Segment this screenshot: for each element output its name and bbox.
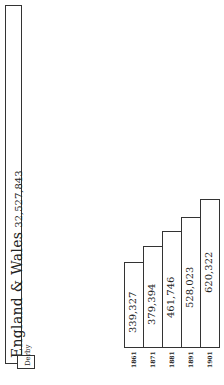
year-1881: 1881 [168,351,175,368]
value-1901: 620,322 [203,252,214,293]
england-wales-value: 32,527,843 [13,170,24,227]
year-1891: 1891 [187,351,194,368]
value-1871: 379,394 [146,284,157,325]
england-wales-label-group: England & Wales32,527,843 [7,170,26,358]
year-1901: 1901 [206,351,213,368]
england-wales-label: England & Wales [9,232,25,358]
value-1891: 528,023 [184,267,195,308]
value-1861: 339,327 [127,292,138,333]
derby-label: Derby [24,344,32,366]
year-1861: 1861 [130,351,137,368]
year-1871: 1871 [149,351,156,368]
value-1881: 461,746 [165,277,176,318]
